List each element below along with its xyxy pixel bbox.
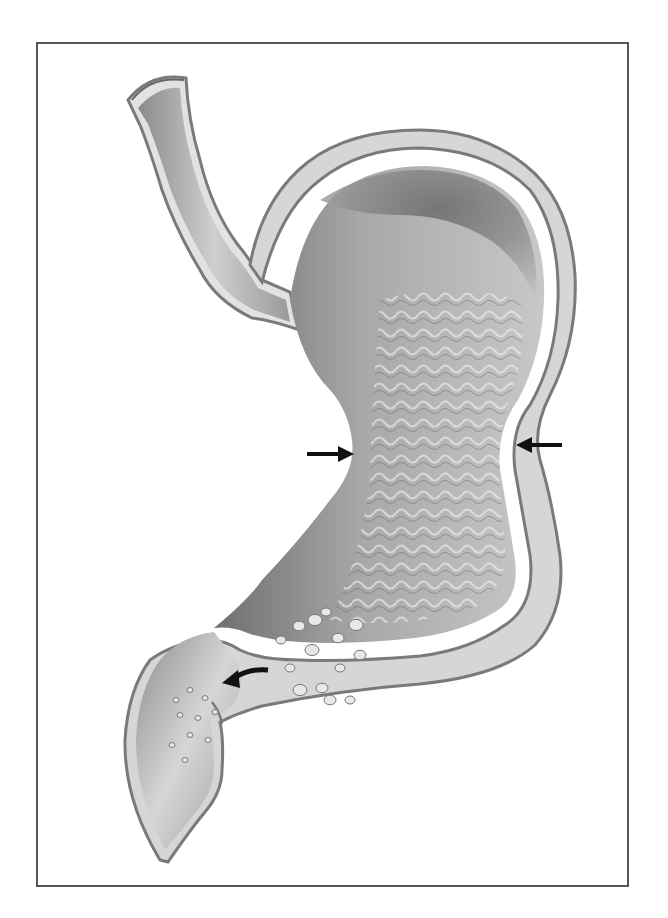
food-particle xyxy=(205,738,211,743)
food-particle xyxy=(335,664,345,672)
food-particle xyxy=(195,716,201,721)
food-particle xyxy=(173,698,179,703)
food-particle xyxy=(354,650,366,660)
food-particle xyxy=(187,688,193,693)
food-particle xyxy=(212,710,218,715)
food-particle xyxy=(293,621,305,631)
food-particle xyxy=(276,636,286,644)
food-particle xyxy=(349,619,363,630)
food-particle xyxy=(285,664,295,672)
constriction-left-arrow xyxy=(307,446,354,462)
food-particle xyxy=(321,608,331,616)
food-particle xyxy=(316,683,328,693)
food-particle xyxy=(169,743,175,748)
food-particle xyxy=(182,758,188,763)
food-particle xyxy=(293,684,307,695)
food-particle xyxy=(324,695,336,705)
food-particle xyxy=(202,696,208,701)
food-particle xyxy=(305,644,319,655)
food-particle xyxy=(332,633,344,643)
food-particle xyxy=(187,733,193,738)
food-particle xyxy=(345,696,355,704)
food-particle xyxy=(177,713,183,718)
stomach-illustration xyxy=(0,0,668,918)
food-particle xyxy=(308,614,322,625)
